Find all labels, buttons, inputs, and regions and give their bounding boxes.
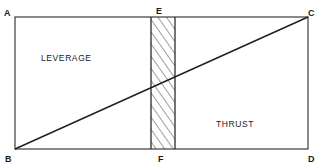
point-label-b: B xyxy=(5,154,12,164)
point-label-e: E xyxy=(156,6,162,16)
region-label-thrust: THRUST xyxy=(216,119,254,129)
point-label-f: F xyxy=(158,154,164,164)
region-label-leverage: LEVERAGE xyxy=(41,53,92,63)
leverage-thrust-diagram: A B C D E F LEVERAGE THRUST xyxy=(0,0,319,166)
point-label-c: C xyxy=(308,8,315,18)
point-label-a: A xyxy=(4,8,11,18)
point-label-d: D xyxy=(308,154,315,164)
